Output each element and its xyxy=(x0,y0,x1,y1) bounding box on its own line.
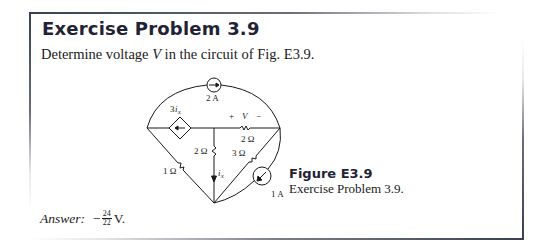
answer-denominator: 22 xyxy=(103,219,111,227)
label-2a: 2 A xyxy=(206,93,219,103)
figure-caption: Figure E3.9 Exercise Problem 3.9. xyxy=(289,166,404,196)
answer-label: Answer: xyxy=(40,211,85,227)
answer: Answer: − 24 22 V. xyxy=(40,210,125,227)
label-voltage-v: V xyxy=(242,111,249,121)
label-dependent-sub: x xyxy=(177,109,181,115)
answer-sign: − xyxy=(93,211,101,227)
label-voltage-plus: + xyxy=(229,111,234,121)
exercise-box: Exercise Problem 3.9 Determine voltage V… xyxy=(0,0,550,248)
resistor-top-2ohm-icon xyxy=(240,126,250,130)
figure-caption-text: Exercise Problem 3.9. xyxy=(289,181,404,196)
label-resistor-right: 3 Ω xyxy=(232,148,246,158)
current-ix-arrow-icon xyxy=(212,176,217,182)
wire-arc-right xyxy=(221,85,280,128)
resistor-right-3ohm-icon xyxy=(249,156,256,162)
answer-fraction: 24 22 xyxy=(102,210,112,227)
label-resistor-middle: 2 Ω xyxy=(194,146,208,156)
label-resistor-top: 2 Ω xyxy=(241,134,255,144)
resistor-left-1ohm-icon xyxy=(178,163,184,170)
figure-label: Figure E3.9 xyxy=(289,166,404,181)
label-voltage-minus: − xyxy=(256,111,261,121)
label-1a: 1 A xyxy=(271,189,284,199)
label-resistor-left: 1 Ω xyxy=(163,166,177,176)
resistor-middle-2ohm-icon xyxy=(212,146,216,156)
label-ix-sub: x xyxy=(220,173,224,179)
answer-unit: V. xyxy=(114,211,125,227)
